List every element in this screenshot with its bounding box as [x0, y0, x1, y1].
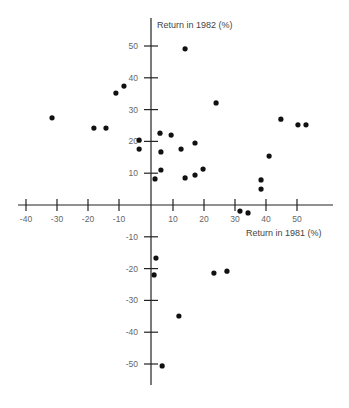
y-tick-label: -30 — [126, 295, 139, 305]
data-point — [237, 208, 242, 213]
x-tick-label: -10 — [113, 214, 126, 224]
data-point — [303, 122, 308, 127]
y-tick-label: -40 — [126, 327, 139, 337]
x-tick-label: -40 — [20, 214, 33, 224]
data-point — [213, 100, 218, 105]
data-point — [278, 117, 283, 122]
y-tick-label: -50 — [126, 359, 139, 369]
data-point — [192, 140, 197, 145]
data-point — [152, 176, 157, 181]
y-tick-label: 30 — [129, 105, 139, 115]
x-axis: -40-30-20-101020304050 Return in 1981 (%… — [18, 199, 333, 238]
data-point — [258, 177, 263, 182]
x-tick-label: 20 — [199, 214, 209, 224]
data-point — [137, 146, 142, 151]
x-tick-label: 30 — [230, 214, 240, 224]
x-tick-label: -30 — [51, 214, 64, 224]
data-point — [182, 175, 187, 180]
y-tick-label: 50 — [129, 41, 139, 51]
y-tick-label: 20 — [129, 136, 139, 146]
data-point — [258, 187, 263, 192]
x-axis-ticks: -40-30-20-101020304050 — [20, 199, 302, 224]
x-tick-label: -20 — [82, 214, 95, 224]
data-point — [200, 166, 205, 171]
y-axis-title: Return in 1982 (%) — [157, 20, 233, 30]
data-point — [160, 363, 165, 368]
data-point — [158, 167, 163, 172]
y-tick-label: -20 — [126, 264, 139, 274]
y-tick-label: -10 — [126, 232, 139, 242]
data-point — [151, 272, 156, 277]
y-tick-label: 40 — [129, 73, 139, 83]
x-tick-label: 40 — [261, 214, 271, 224]
data-point — [121, 83, 126, 88]
x-tick-label: 50 — [292, 214, 302, 224]
x-axis-title: Return in 1981 (%) — [246, 228, 322, 238]
data-point — [157, 131, 162, 136]
data-point — [169, 132, 174, 137]
data-point — [137, 138, 142, 143]
data-point — [224, 269, 229, 274]
data-point — [178, 146, 183, 151]
data-point — [91, 125, 96, 130]
y-tick-label: 10 — [129, 168, 139, 178]
data-point — [49, 115, 54, 120]
data-point — [182, 46, 187, 51]
data-point — [211, 270, 216, 275]
scatter-chart: -40-30-20-101020304050 Return in 1981 (%… — [0, 0, 349, 408]
data-point — [192, 173, 197, 178]
data-point — [295, 122, 300, 127]
x-tick-label: 10 — [168, 214, 178, 224]
data-point — [245, 210, 250, 215]
y-axis: 5040302010-10-20-30-40-50 Return in 1982… — [126, 18, 233, 385]
data-point — [176, 313, 181, 318]
data-point — [267, 153, 272, 158]
data-point — [153, 256, 158, 261]
data-point — [158, 149, 163, 154]
data-point — [113, 90, 118, 95]
data-point — [103, 125, 108, 130]
